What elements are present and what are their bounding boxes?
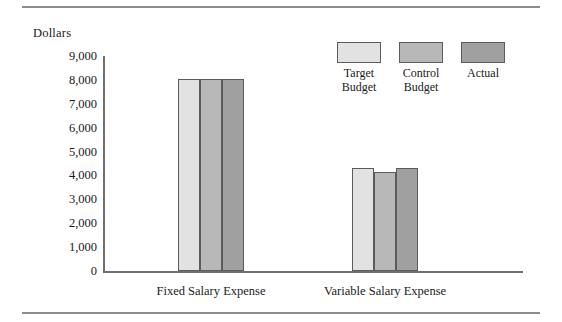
y-axis-tick-label: 4,000 (35, 169, 97, 182)
y-axis-tick-labels: 9,0008,0007,0006,0005,0004,0003,0002,000… (27, 56, 97, 273)
legend-item: Target Budget (337, 42, 381, 95)
x-axis-category-label: Fixed Salary Expense (156, 284, 265, 299)
legend-swatch (337, 42, 381, 63)
legend-swatch (399, 42, 443, 63)
bar (222, 79, 244, 271)
y-axis-tick-label: 0 (35, 265, 97, 278)
legend-label: Control Budget (399, 67, 443, 95)
y-axis-tick-label: 7,000 (35, 98, 97, 111)
bar (374, 172, 396, 271)
bottom-divider-rule (22, 312, 540, 314)
legend-item: Control Budget (399, 42, 443, 95)
x-axis-line (103, 271, 523, 273)
bar (200, 79, 222, 271)
legend-item: Actual (461, 42, 505, 95)
y-axis-tick-label: 3,000 (35, 193, 97, 206)
y-axis-tick-label: 2,000 (35, 217, 97, 230)
chart-legend: Target BudgetControl BudgetActual (337, 42, 505, 95)
legend-swatch (461, 42, 505, 63)
y-axis-tick-label: 6,000 (35, 121, 97, 134)
x-axis-category-label: Variable Salary Expense (324, 284, 446, 299)
chart-figure: Dollars 9,0008,0007,0006,0005,0004,0003,… (0, 0, 562, 322)
y-axis-tick-label: 9,000 (35, 50, 97, 63)
y-axis-tick-label: 1,000 (35, 241, 97, 254)
y-axis-tick-label: 5,000 (35, 145, 97, 158)
y-axis-tick-label: 8,000 (35, 74, 97, 87)
bar (352, 168, 374, 271)
top-divider-rule (22, 6, 540, 8)
y-axis-line (103, 56, 105, 273)
y-axis-title: Dollars (33, 26, 71, 41)
legend-label: Actual (461, 67, 505, 81)
bar (178, 79, 200, 271)
legend-label: Target Budget (337, 67, 381, 95)
bar (396, 168, 418, 271)
